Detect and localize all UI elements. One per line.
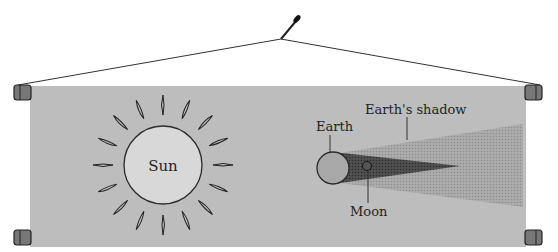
- scroll-rod-bottom-right: [525, 230, 542, 245]
- sun-label: Sun: [148, 157, 178, 175]
- earth: [317, 152, 349, 184]
- nail-icon: [281, 14, 302, 39]
- lunar-eclipse-diagram: Sun Earth Earth's shadow Moon: [0, 0, 558, 252]
- scroll-rod-top-right: [525, 85, 542, 100]
- earth-shadow-label: Earth's shadow: [365, 102, 467, 117]
- scroll-rod-top-left: [14, 85, 31, 100]
- scroll-rod-bottom-left: [14, 230, 31, 245]
- hanging-strings: [18, 39, 540, 85]
- moon: [363, 162, 372, 171]
- moon-label: Moon: [350, 204, 388, 219]
- earth-label: Earth: [316, 119, 354, 134]
